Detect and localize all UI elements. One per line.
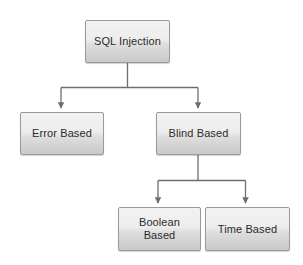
node-boolean-based-label: Boolean Based — [136, 216, 183, 242]
node-error-based[interactable]: Error Based — [20, 112, 104, 155]
node-time-based[interactable]: Time Based — [205, 207, 290, 251]
node-time-based-label: Time Based — [215, 223, 280, 236]
node-blind-based[interactable]: Blind Based — [156, 112, 241, 155]
node-error-based-label: Error Based — [29, 127, 95, 140]
node-blind-based-label: Blind Based — [166, 127, 232, 140]
diagram-canvas: SQL Injection Error Based Blind Based Bo… — [0, 0, 303, 265]
node-sql-injection-label: SQL Injection — [91, 35, 164, 48]
node-boolean-based[interactable]: Boolean Based — [118, 207, 201, 251]
node-sql-injection[interactable]: SQL Injection — [85, 20, 170, 63]
